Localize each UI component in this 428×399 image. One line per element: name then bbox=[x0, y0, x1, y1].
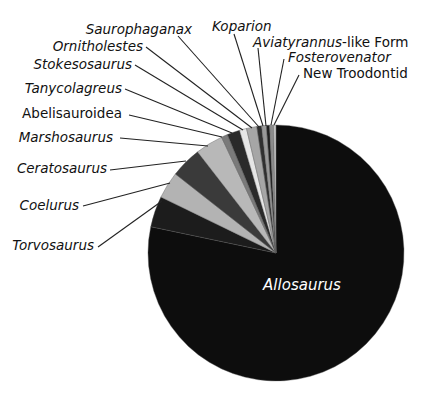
label-allosaurus: Allosaurus bbox=[262, 276, 341, 294]
label-coelurus: Coelurus bbox=[20, 197, 79, 213]
label-stokesosaurus: Stokesosaurus bbox=[33, 56, 132, 72]
label-new-troodontid: New Troodontid bbox=[303, 65, 408, 81]
label-marshosaurus: Marshosaurus bbox=[19, 129, 113, 145]
label-saurophaganax: Saurophaganax bbox=[86, 21, 193, 37]
pie-slices bbox=[148, 125, 404, 381]
label-fosterovenator: Fosterovenator bbox=[288, 49, 392, 65]
label-aviatyrannus-rest: -like Form bbox=[342, 34, 408, 50]
label-abelisauroidea: Abelisauroidea bbox=[22, 105, 122, 121]
label-ceratosaurus: Ceratosaurus bbox=[17, 160, 107, 176]
label-tanycolagreus: Tanycolagreus bbox=[25, 80, 122, 96]
label-torvosaurus: Torvosaurus bbox=[12, 237, 94, 253]
label-koparion: Koparion bbox=[212, 18, 272, 34]
label-aviatyrannus: Aviatyrannus-like Form bbox=[252, 34, 408, 50]
label-aviatyrannus-italic: Aviatyrannus bbox=[252, 34, 342, 50]
pie-chart: Torvosaurus Coelurus Ceratosaurus Marsho… bbox=[0, 0, 428, 399]
label-ornitholestes: Ornitholestes bbox=[53, 38, 143, 54]
